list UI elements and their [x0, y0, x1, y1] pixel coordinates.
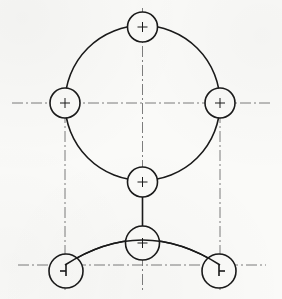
- node-arc-right: [202, 254, 236, 288]
- node-arc-apex: [126, 226, 160, 260]
- node-top: [128, 12, 158, 42]
- node-left: [50, 88, 80, 118]
- node-bottom-mid: [128, 167, 158, 197]
- node-right: [205, 88, 235, 118]
- drawing-canvas: [0, 0, 282, 299]
- technical-drawing-sheet: [0, 0, 282, 299]
- node-arc-left: [49, 254, 83, 288]
